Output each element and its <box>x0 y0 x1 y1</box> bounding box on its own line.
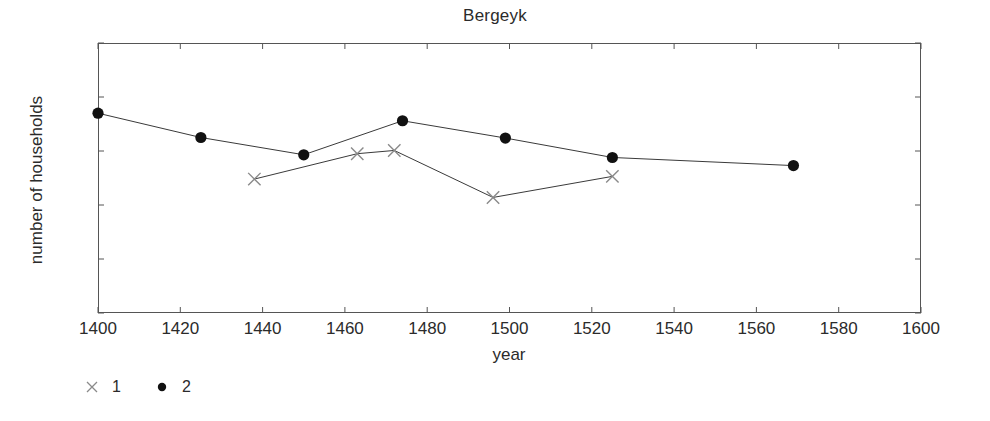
x-tick-label: 1440 <box>228 319 298 339</box>
x-tick-label: 1600 <box>886 319 956 339</box>
y-axis-label: number of households <box>27 60 47 300</box>
x-tick-label: 1540 <box>639 319 709 339</box>
filled-circle-marker-icon <box>155 380 169 394</box>
data-point <box>607 152 618 163</box>
legend-entry-2: 2 <box>155 378 191 396</box>
legend-label-1: 1 <box>112 378 121 396</box>
x-tick-label: 1500 <box>475 319 545 339</box>
chart-legend: 1 2 <box>85 378 191 396</box>
chart-title: Bergeyk <box>0 6 990 26</box>
legend-label-2: 2 <box>182 378 191 396</box>
data-point <box>487 191 499 203</box>
plot-area: 0100200300400500 14001420144014601480150… <box>98 43 921 313</box>
x-tick-label: 1580 <box>804 319 874 339</box>
x-tick-label: 1480 <box>392 319 462 339</box>
x-tick-label: 1460 <box>310 319 380 339</box>
data-point <box>298 149 309 160</box>
x-tick-label: 1420 <box>145 319 215 339</box>
axis-ticks <box>98 43 921 313</box>
x-tick-label: 1560 <box>721 319 791 339</box>
data-point <box>92 108 103 119</box>
x-cross-marker-icon <box>85 380 99 394</box>
chart-figure: Bergeyk number of households 01002003004… <box>0 0 990 421</box>
x-axis-label: year <box>97 345 921 365</box>
x-tick-label: 1400 <box>63 319 133 339</box>
data-point <box>397 115 408 126</box>
data-point <box>788 160 799 171</box>
data-point <box>606 170 618 182</box>
legend-entry-1: 1 <box>85 378 121 396</box>
data-point <box>248 173 260 185</box>
x-tick-label: 1520 <box>557 319 627 339</box>
data-series-layer <box>92 108 799 204</box>
plot-canvas <box>98 43 921 313</box>
data-point <box>195 132 206 143</box>
data-point <box>500 132 511 143</box>
